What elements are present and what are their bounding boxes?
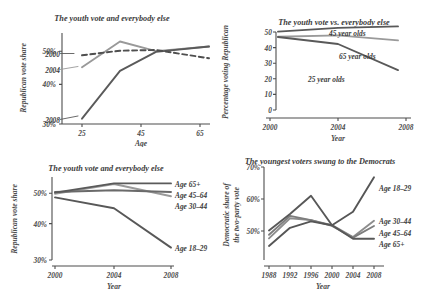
y-tick-label-1: 60% (246, 195, 260, 204)
plot-area (266, 26, 411, 121)
annotation-age-45-64: Age 45–64 (174, 191, 208, 200)
y-tick-label-5: 50 (265, 28, 273, 37)
y-axis-label-line2: the two-party vote (232, 187, 241, 243)
top-right-svg: The youth vote vs. everybody else 0 10 2… (216, 0, 432, 147)
annotation-age-65-plus: Age 65+ (174, 180, 200, 189)
leader-2008 (60, 116, 78, 120)
x-axis-label: Year (331, 134, 346, 143)
x-axis-label: Age (134, 139, 148, 147)
top-left-svg: The youth vote and everybody else (0, 0, 216, 147)
y-tick-label-3: 30 (264, 59, 273, 68)
x-tick-label-3: 2000 (324, 271, 340, 280)
x-tick-label-0: 1988 (262, 271, 277, 280)
y-tick-label-2: 50% (33, 189, 47, 198)
x-tick-label-2: 2008 (398, 123, 414, 132)
y-tick-label-2: 70% (246, 163, 260, 172)
annotation-65-year-olds: 65 year olds (339, 52, 376, 61)
series-line-age-18-29 (55, 197, 171, 247)
x-tick-label-5: 2008 (366, 271, 382, 280)
x-tick-label-0: 2000 (262, 123, 278, 132)
x-tick-label-1: 1992 (283, 271, 298, 280)
x-axis-label: Year (107, 282, 122, 291)
x-tick-label-0: 25 (77, 129, 86, 138)
annotation-age-65-plus: Age 65+ (378, 240, 404, 249)
annotation-age-45-64: Age 45–64 (378, 229, 412, 238)
y-tick-label-4: 40 (264, 44, 273, 53)
plot-area (49, 177, 174, 269)
x-tick-label-2: 1996 (304, 271, 319, 280)
series-line-2004 (82, 42, 209, 68)
y-tick-label-0: 30% (32, 256, 47, 265)
annotation-2004: 2004 (44, 66, 60, 75)
y-axis-label: Percentage voting Republican (221, 25, 230, 119)
annotation-2008: 2008 (44, 116, 60, 125)
x-tick-label-1: 45 (136, 129, 145, 138)
y-tick-label-1: 40% (32, 220, 47, 229)
annotation-age-30-44: Age 30–44 (174, 202, 208, 211)
annotation-2000: 2000 (44, 50, 60, 59)
annotation-25-year-olds: 25 year olds (307, 75, 345, 84)
y-tick-label-1: 10 (265, 90, 273, 99)
x-tick-label-1: 2004 (106, 271, 122, 280)
chart-panel-top-left: The youth vote and everybody else (0, 0, 216, 147)
chart-panel-bottom-right: The youngest voters swung to the Democra… (216, 147, 432, 294)
figure-grid: The youth vote and everybody else (0, 0, 432, 294)
y-tick-label-2: 20 (264, 75, 273, 84)
annotation-age-18-29: Age 18–29 (174, 244, 208, 253)
x-tick-label-4: 2004 (345, 271, 361, 280)
y-tick-label-0: 50% (246, 227, 260, 236)
x-tick-label-2: 65 (196, 129, 204, 138)
y-axis-label: Republican vote share (10, 184, 19, 255)
series-line-25 (278, 37, 398, 70)
y-tick-label-1: 40% (41, 80, 56, 89)
bottom-right-svg: The youngest voters swung to the Democra… (216, 147, 432, 294)
leader-2004 (60, 67, 78, 70)
chart-title: The youth vote vs. everybody else (278, 18, 390, 27)
x-axis-label: Year (316, 282, 331, 291)
series-line-2008 (82, 47, 209, 119)
chart-title: The youth vote and everybody else (48, 164, 164, 173)
annotation-45-year-olds: 45 year olds (328, 29, 366, 38)
bottom-left-svg: The youth vote and everybody else 30% 40… (0, 147, 216, 294)
chart-panel-top-right: The youth vote vs. everybody else 0 10 2… (216, 0, 432, 147)
chart-panel-bottom-left: The youth vote and everybody else 30% 40… (0, 147, 216, 294)
y-axis-label-line1: Democratic share of (222, 182, 231, 248)
y-tick-label-0: 0 (268, 106, 272, 115)
x-tick-label-2: 2008 (163, 271, 179, 280)
annotation-age-18-29: Age 18–29 (378, 184, 412, 193)
chart-title: The youngest voters swung to the Democra… (245, 157, 396, 166)
annotation-age-30-44: Age 30–44 (378, 217, 412, 226)
plot-area (261, 167, 384, 269)
y-axis-label: Republican vote share (19, 43, 28, 114)
chart-title: The youth vote and everybody else (54, 14, 170, 23)
x-tick-label-0: 2000 (47, 271, 63, 280)
x-tick-label-1: 2004 (330, 123, 346, 132)
plot-area (59, 33, 210, 127)
